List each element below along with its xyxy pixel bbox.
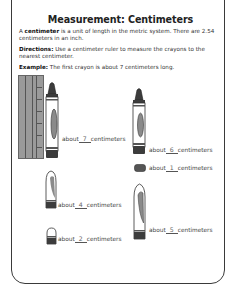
example-label: Example: <box>19 64 48 70</box>
label-suffix: centimeters <box>91 136 126 142</box>
ruler-tick <box>36 111 42 112</box>
ruler-tick <box>36 99 42 100</box>
crayon-icon-6cm <box>132 87 146 155</box>
crayon-icon-1cm <box>134 164 146 172</box>
ruler-tick <box>36 123 42 124</box>
answer-field[interactable]: 7 <box>79 136 91 143</box>
answer-field[interactable]: 2 <box>75 236 87 243</box>
intro-paragraph: A centimeter is a unit of length in the … <box>19 28 221 42</box>
label-suffix: centimeters <box>87 202 122 208</box>
directions-label: Directions: <box>19 46 53 52</box>
label-prefix: about <box>58 236 75 242</box>
label-suffix: centimeters <box>87 236 122 242</box>
label-suffix: centimeters <box>178 227 213 233</box>
label-prefix: about <box>58 202 75 208</box>
centimeter-ruler <box>18 75 44 159</box>
label-prefix: about <box>149 165 166 171</box>
answer-field[interactable]: 4 <box>75 202 87 209</box>
example-paragraph: Example: The first crayon is about 7 cen… <box>19 64 221 71</box>
crayon-icon-5cm <box>133 183 146 241</box>
answer-label-crayon-6: about2centimeters <box>58 236 122 243</box>
label-suffix: centimeters <box>178 165 213 171</box>
answer-label-crayon-2: about6centimeters <box>149 147 213 154</box>
label-prefix: about <box>149 147 166 153</box>
ruler-strip <box>36 76 37 158</box>
label-prefix: about <box>149 227 166 233</box>
answer-field[interactable]: 6 <box>166 147 178 154</box>
ruler-strip <box>25 76 26 158</box>
page-title: Measurement: Centimeters <box>0 14 241 25</box>
example-text: The first crayon is about 7 centimeters … <box>48 64 174 70</box>
ruler-strip <box>32 76 33 158</box>
answer-field[interactable]: 5 <box>166 227 178 234</box>
label-prefix: about <box>62 136 79 142</box>
answer-field[interactable]: 1 <box>166 165 178 172</box>
answer-label-crayon-3: about1centimeters <box>149 165 213 172</box>
ruler-tick <box>36 147 42 148</box>
label-suffix: centimeters <box>178 147 213 153</box>
answer-label-crayon-4: about4centimeters <box>58 202 122 209</box>
crayon-icon-4cm <box>45 170 57 210</box>
directions-paragraph: Directions: Use a centimeter ruler to me… <box>19 46 221 60</box>
ruler-tick <box>36 87 42 88</box>
intro-term: centimeter <box>25 28 60 34</box>
answer-label-crayon-1: about7centimeters <box>62 136 126 143</box>
crayon-icon-7cm <box>45 81 59 159</box>
crayon-icon-2cm <box>46 227 57 245</box>
answer-label-crayon-5: about5centimeters <box>149 227 213 234</box>
ruler-tick <box>36 135 42 136</box>
